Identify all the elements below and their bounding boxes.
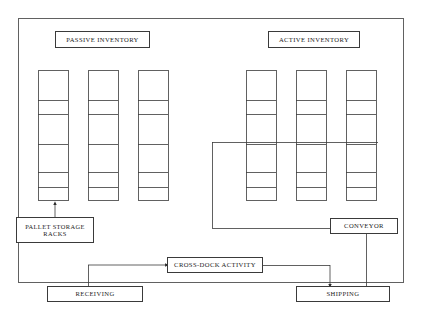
node-conveyor-text: CONVEYOR xyxy=(344,222,384,229)
active-rack-2 xyxy=(296,70,326,200)
node-conveyor: CONVEYOR xyxy=(330,218,398,234)
active-rack-3-frame xyxy=(346,70,376,200)
passive-rack-3-frame xyxy=(138,70,168,200)
passive-rack-2 xyxy=(88,70,118,200)
passive-rack-1-frame xyxy=(38,70,68,200)
zone-label-passive-inventory: PASSIVE INVENTORY xyxy=(55,31,150,48)
active-rack-1 xyxy=(246,70,276,200)
zone-label-active-text: ACTIVE INVENTORY xyxy=(279,36,349,43)
node-shipping: SHIPPING xyxy=(296,286,390,302)
node-pallet-storage-racks-text: PALLET STORAGE RACKS xyxy=(25,223,85,237)
passive-rack-2-frame xyxy=(88,70,118,200)
active-rack-3 xyxy=(346,70,376,200)
node-receiving-text: RECEIVING xyxy=(75,290,114,297)
node-shipping-text: SHIPPING xyxy=(327,290,360,297)
active-rack-1-frame xyxy=(246,70,276,200)
passive-rack-1 xyxy=(38,70,68,200)
warehouse-layout-diagram: PASSIVE INVENTORY ACTIVE INVENTORY PALLE… xyxy=(0,0,421,318)
zone-label-passive-text: PASSIVE INVENTORY xyxy=(66,36,139,43)
passive-rack-3 xyxy=(138,70,168,200)
pallet-rack-group xyxy=(38,70,376,200)
zone-label-active-inventory: ACTIVE INVENTORY xyxy=(268,31,360,48)
node-cross-dock-activity: CROSS-DOCK ACTIVITY xyxy=(167,257,263,273)
node-cross-dock-activity-text: CROSS-DOCK ACTIVITY xyxy=(174,261,256,268)
active-rack-2-frame xyxy=(296,70,326,200)
node-pallet-storage-racks: PALLET STORAGE RACKS xyxy=(16,217,94,243)
node-receiving: RECEIVING xyxy=(47,286,143,302)
